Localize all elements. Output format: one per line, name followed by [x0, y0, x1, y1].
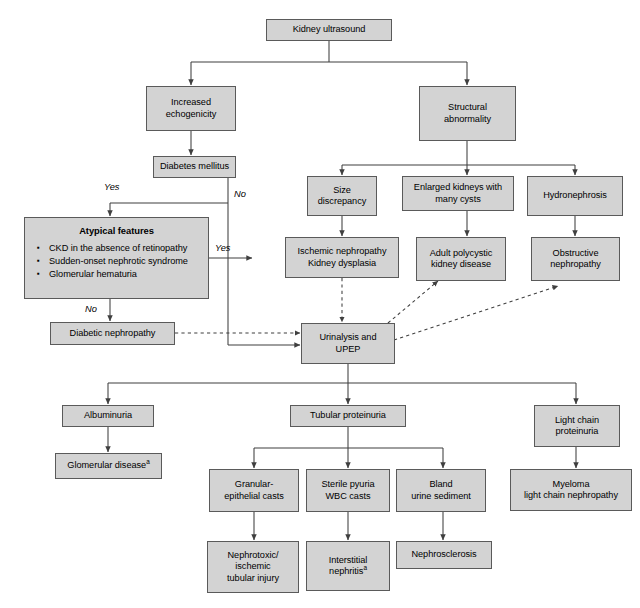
node-nephrotoxic-ischemic-tubular-injury[interactable]: Nephrotoxic/ ischemic tubular injury	[207, 541, 299, 593]
node-label: Tubular proteinuria	[310, 410, 386, 422]
node-interstitial-nephritis[interactable]: Interstitial nephritisa	[306, 541, 390, 591]
node-label-line2: light chain nephropathy	[524, 490, 618, 502]
node-label-line2: abnormality	[444, 114, 491, 126]
node-label-line1: Myeloma	[553, 479, 590, 491]
node-label-line2: discrepancy	[318, 196, 366, 208]
node-obstructive-nephropathy[interactable]: Obstructive nephropathy	[531, 237, 620, 281]
edge-label-no-from-diabetes: No	[234, 189, 246, 199]
node-label-line2: UPEP	[336, 344, 361, 356]
node-label-line1: Light chain	[555, 415, 599, 427]
node-tubular-proteinuria[interactable]: Tubular proteinuria	[290, 405, 406, 427]
node-label: Albuminuria	[84, 410, 132, 422]
node-structural-abnormality[interactable]: Structural abnormality	[419, 86, 516, 141]
node-label-line2: ischemic	[235, 561, 270, 573]
node-label-line1: Size	[333, 185, 351, 197]
flowchart-canvas: Kidney ultrasound Increased echogenicity…	[0, 0, 640, 608]
node-increased-echogenicity[interactable]: Increased echogenicity	[146, 86, 236, 131]
node-label-line2: many cysts	[435, 194, 480, 206]
atypical-bullet-2: Sudden-onset nephrotic syndrome	[35, 255, 198, 268]
node-label-line3: tubular injury	[227, 573, 279, 585]
node-label-line1: Interstitial	[329, 555, 368, 567]
node-myeloma-light-chain-nephropathy[interactable]: Myeloma light chain nephropathy	[510, 469, 632, 511]
edge-label-yes-to-atypical: Yes	[104, 182, 120, 192]
atypical-bullet-3: Glomerular hematuria	[35, 268, 198, 281]
node-label-line1: Granular-	[235, 479, 273, 491]
node-label-line2: epithelial casts	[224, 491, 283, 503]
node-albuminuria[interactable]: Albuminuria	[62, 405, 154, 427]
node-label: Glomerular disease	[67, 460, 146, 470]
node-label-line2: nephropathy	[550, 259, 601, 271]
footnote-marker: a	[146, 458, 150, 465]
node-enlarged-kidneys-many-cysts[interactable]: Enlarged kidneys with many cysts	[402, 176, 514, 211]
node-label-line1: Nephrotoxic/	[228, 550, 279, 562]
node-label-line2: Kidney dysplasia	[308, 258, 376, 270]
node-light-chain-proteinuria[interactable]: Light chain proteinuria	[534, 405, 620, 447]
node-label: Hydronephrosis	[543, 190, 607, 202]
node-nephrosclerosis[interactable]: Nephrosclerosis	[396, 541, 492, 569]
node-label-line1: Increased	[171, 97, 211, 109]
atypical-features-title: Atypical features	[35, 225, 198, 237]
node-label-line2: echogenicity	[166, 109, 216, 121]
node-diabetes-mellitus[interactable]: Diabetes mellitus	[153, 156, 236, 178]
node-label: Diabetic nephropathy	[70, 328, 156, 340]
node-label: Nephrosclerosis	[411, 549, 476, 561]
node-diabetic-nephropathy[interactable]: Diabetic nephropathy	[50, 322, 175, 345]
footnote-marker: a	[363, 564, 367, 571]
node-label-line1: Bland	[429, 479, 452, 491]
node-label-line1: Urinalysis and	[319, 332, 376, 344]
node-bland-urine-sediment[interactable]: Bland urine sediment	[396, 469, 486, 512]
node-glomerular-disease[interactable]: Glomerular diseasea	[55, 453, 162, 479]
node-sterile-pyuria-wbc-casts[interactable]: Sterile pyuria WBC casts	[306, 469, 390, 512]
edge-label-yes-from-atypical: Yes	[215, 243, 231, 253]
node-label-line2: nephritis	[329, 566, 363, 576]
wire-dashed-polycystic-urinalysis	[388, 281, 438, 323]
wire-dashed-obstructive-urinalysis	[394, 286, 558, 340]
node-label-line2: WBC casts	[326, 491, 371, 503]
node-kidney-ultrasound[interactable]: Kidney ultrasound	[266, 19, 392, 41]
node-granular-epithelial-casts[interactable]: Granular- epithelial casts	[209, 469, 299, 512]
node-label-line1: Obstructive	[553, 248, 599, 260]
node-adult-polycystic-kidney-disease[interactable]: Adult polycystic kidney disease	[416, 237, 506, 281]
node-label-line1: Sterile pyuria	[322, 479, 375, 491]
node-ischemic-nephropathy[interactable]: Ischemic nephropathy Kidney dysplasia	[285, 237, 399, 278]
node-label: Kidney ultrasound	[293, 24, 366, 36]
node-label-line2: proteinuria	[556, 426, 599, 438]
edge-label-no-from-atypical: No	[85, 304, 97, 314]
node-label: Diabetes mellitus	[160, 161, 229, 173]
node-hydronephrosis[interactable]: Hydronephrosis	[527, 176, 623, 216]
node-urinalysis-and-upep[interactable]: Urinalysis and UPEP	[301, 323, 395, 364]
node-atypical-features[interactable]: Atypical features CKD in the absence of …	[24, 217, 209, 299]
node-size-discrepancy[interactable]: Size discrepancy	[307, 176, 377, 216]
atypical-bullet-1: CKD in the absence of retinopathy	[35, 242, 198, 255]
node-label-line2: kidney disease	[431, 259, 491, 271]
node-label-line2: urine sediment	[411, 491, 471, 503]
node-label-line1: Ischemic nephropathy	[298, 246, 387, 258]
node-label-line1: Adult polycystic	[430, 248, 493, 260]
node-label-line1: Structural	[448, 102, 487, 114]
node-label-line1: Enlarged kidneys with	[414, 182, 502, 194]
